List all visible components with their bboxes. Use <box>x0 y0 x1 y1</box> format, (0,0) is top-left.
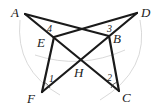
angle-label-4: 4 <box>47 23 52 34</box>
label-A: A <box>10 5 19 20</box>
angle-label-2: 2 <box>107 72 112 83</box>
label-H: H <box>73 65 84 80</box>
angle-label-1: 1 <box>49 73 54 84</box>
geometry-diagram: A D E B H F C 4 3 1 2 <box>0 0 160 105</box>
label-F: F <box>26 91 36 105</box>
angle-label-3: 3 <box>106 23 112 34</box>
segment-DF <box>42 13 137 92</box>
label-D: D <box>140 5 151 20</box>
label-E: E <box>36 35 45 50</box>
label-B: B <box>113 31 121 46</box>
label-C: C <box>122 90 131 105</box>
